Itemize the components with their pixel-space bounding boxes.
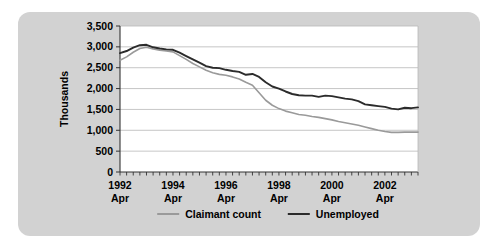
- svg-text:3,000: 3,000: [87, 40, 113, 52]
- svg-text:Thousands: Thousands: [58, 71, 70, 127]
- svg-text:1,500: 1,500: [87, 103, 113, 115]
- svg-text:Unemployed: Unemployed: [316, 208, 379, 220]
- line-chart: 05001,0001,5002,0002,5003,0003,500 1992A…: [0, 0, 504, 248]
- svg-text:Apr: Apr: [164, 192, 182, 204]
- svg-text:Apr: Apr: [111, 192, 129, 204]
- svg-text:1996: 1996: [214, 179, 238, 191]
- y-axis-ticks: 05001,0001,5002,0002,5003,0003,500: [87, 20, 120, 178]
- chart-figure: 05001,0001,5002,0002,5003,0003,500 1992A…: [0, 0, 504, 248]
- svg-text:1998: 1998: [267, 179, 291, 191]
- svg-text:Apr: Apr: [376, 192, 394, 204]
- svg-text:500: 500: [95, 145, 113, 157]
- svg-text:Claimant count: Claimant count: [185, 208, 261, 220]
- svg-text:1994: 1994: [161, 179, 185, 191]
- svg-text:2002: 2002: [373, 179, 397, 191]
- x-axis-ticks: 1992Apr1994Apr1996Apr1998Apr2000Apr2002A…: [108, 172, 418, 204]
- plot-background: [120, 26, 418, 172]
- svg-text:Apr: Apr: [217, 192, 235, 204]
- svg-text:Apr: Apr: [323, 192, 341, 204]
- svg-text:2000: 2000: [320, 179, 344, 191]
- svg-text:0: 0: [107, 166, 113, 178]
- svg-text:3,500: 3,500: [87, 20, 113, 32]
- chart-legend: Claimant countUnemployed: [157, 208, 379, 220]
- svg-text:2,000: 2,000: [87, 82, 113, 94]
- svg-text:2,500: 2,500: [87, 61, 113, 73]
- svg-text:1992: 1992: [108, 179, 132, 191]
- y-axis-title: Thousands: [58, 71, 70, 127]
- svg-text:Apr: Apr: [270, 192, 288, 204]
- svg-text:1,000: 1,000: [87, 124, 113, 136]
